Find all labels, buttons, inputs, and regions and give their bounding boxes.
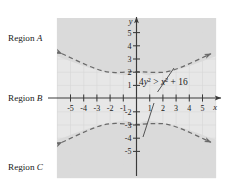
- y-tick-label: -3: [125, 121, 132, 130]
- y-tick-label: 5: [128, 29, 132, 38]
- y-tick-label: 2: [128, 68, 132, 77]
- inequality-annotation: 4y2 > x2 + 16: [139, 76, 188, 87]
- y-tick-label: 1: [128, 81, 132, 90]
- x-tick-label: -4: [80, 104, 87, 113]
- region-b-label: Region B: [8, 93, 43, 103]
- region-c-label: Region C: [8, 162, 44, 172]
- x-tick-label: 5: [201, 104, 205, 113]
- x-tick-label: 4: [187, 104, 191, 113]
- x-axis-label: x: [212, 103, 217, 112]
- region-a-label: Region A: [8, 33, 43, 43]
- y-tick-label: -5: [125, 147, 132, 156]
- y-tick-label: -4: [125, 134, 132, 143]
- coordinate-plane-svg: -5 -4 -3 -2 -1 1 2 3 4 5 5 4 3 2 1 -2 -3…: [0, 0, 238, 188]
- x-tick-label: 2: [161, 104, 165, 113]
- y-tick-label: 4: [128, 42, 132, 51]
- graph-figure: -5 -4 -3 -2 -1 1 2 3 4 5 5 4 3 2 1 -2 -3…: [0, 0, 238, 188]
- y-tick-label: -2: [125, 108, 132, 117]
- x-tick-label: 3: [174, 104, 178, 113]
- y-tick-label: 3: [128, 55, 132, 64]
- x-tick-label: -3: [94, 104, 101, 113]
- x-tick-label: -2: [107, 104, 114, 113]
- x-tick-label: -5: [67, 104, 74, 113]
- y-axis-label: y: [128, 17, 133, 26]
